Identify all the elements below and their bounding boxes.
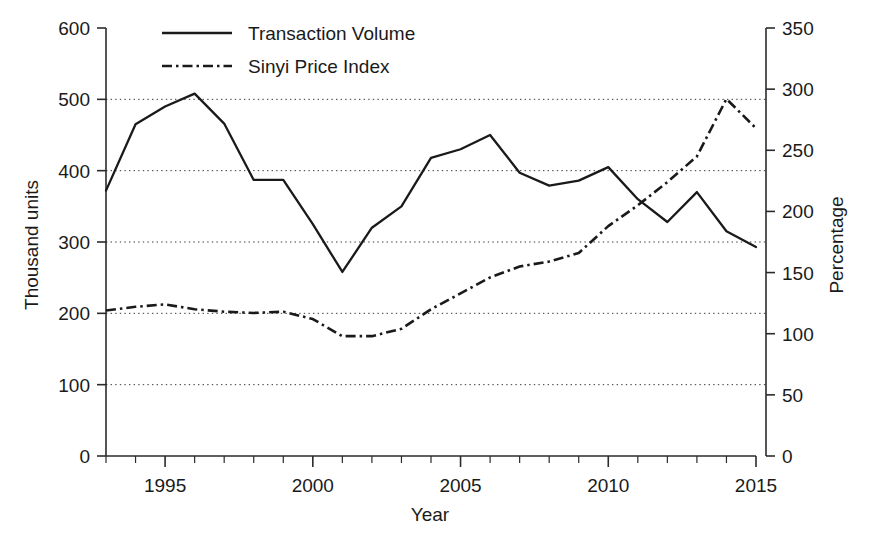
y-axis-left-tick-label: 100: [58, 375, 90, 396]
y-axis-left-tick-label: 0: [79, 446, 90, 467]
y-axis-right-tick-label: 300: [782, 79, 814, 100]
x-axis-title: Year: [411, 504, 450, 525]
x-axis-tick-label: 2015: [735, 475, 777, 496]
y-axis-left-title: Thousand units: [21, 180, 42, 310]
y-axis-right-tick-label: 200: [782, 201, 814, 222]
legend-label-sinyi-price-index: Sinyi Price Index: [248, 56, 390, 77]
y-axis-left-tick-label: 400: [58, 161, 90, 182]
dual-axis-line-chart: 0100200300400500600 05010015020025030035…: [0, 0, 875, 541]
x-axis-tick-label: 2000: [292, 475, 334, 496]
x-axis-tick-label: 2010: [587, 475, 629, 496]
y-axis-right-tick-label: 100: [782, 324, 814, 345]
y-axis-left-tick-label: 500: [58, 89, 90, 110]
y-axis-left-tick-label: 600: [58, 18, 90, 39]
chart-container: 0100200300400500600 05010015020025030035…: [0, 0, 875, 541]
y-axis-right-tick-label: 50: [782, 385, 803, 406]
y-axis-right-tick-label: 0: [782, 446, 793, 467]
x-axis-tick-label: 1995: [144, 475, 186, 496]
y-axis-left-tick-label: 200: [58, 303, 90, 324]
y-axis-right-tick-label: 250: [782, 140, 814, 161]
y-axis-right-title: Percentage: [826, 196, 847, 293]
chart-background: [0, 0, 875, 541]
y-axis-left-tick-label: 300: [58, 232, 90, 253]
y-axis-right-tick-label: 350: [782, 18, 814, 39]
x-axis-tick-label: 2005: [439, 475, 481, 496]
legend-label-transaction-volume: Transaction Volume: [248, 23, 415, 44]
y-axis-right-tick-label: 150: [782, 263, 814, 284]
